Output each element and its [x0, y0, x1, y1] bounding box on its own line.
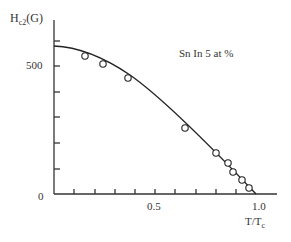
y-axis-label-sub: c2 [19, 18, 27, 27]
x-tick-0-5: 0.5 [147, 200, 161, 212]
y-axis-label-unit: (G) [26, 11, 43, 25]
x-axis-label-main: T/T [245, 215, 262, 227]
y-tick-0: 0 [38, 190, 44, 202]
data-points [82, 53, 252, 191]
y-axis-label-main: H [10, 11, 19, 25]
x-axis-label: T/Tc [245, 215, 265, 227]
x-tick-1-0: 1.0 [252, 200, 266, 212]
y-axis-label: Hc2(G) [10, 11, 43, 26]
fit-curve [54, 46, 256, 194]
y-tick-500: 500 [26, 59, 43, 71]
chart-plot [0, 0, 291, 242]
x-axis-label-sub: c [262, 221, 266, 230]
annotation-sample: Sn In 5 at % [179, 47, 233, 59]
x-axis [54, 189, 277, 194]
